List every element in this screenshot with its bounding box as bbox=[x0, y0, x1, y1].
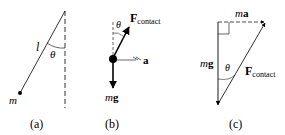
caption-a: (a) bbox=[30, 117, 43, 131]
contact-force-arrow bbox=[113, 27, 129, 58]
caption-b: (b) bbox=[105, 117, 119, 131]
weight-label: mg bbox=[105, 91, 119, 103]
angle-label: θ bbox=[50, 48, 56, 60]
caption-c: (c) bbox=[229, 117, 242, 131]
weight-label: mg bbox=[200, 57, 214, 69]
angle-arc bbox=[113, 33, 123, 36]
acceleration-label: a bbox=[143, 54, 149, 66]
panel-b: Fcontact θ a mg (b) bbox=[105, 11, 161, 131]
pendulum-string bbox=[20, 11, 65, 93]
right-angle-marker bbox=[218, 22, 229, 34]
acceleration-double-arrowhead bbox=[133, 57, 141, 60]
mass-label: m bbox=[9, 94, 17, 106]
pendulum-force-diagram: l θ m (a) Fcontact θ a mg (b) ma mg θ Fc… bbox=[0, 0, 285, 135]
length-label: l bbox=[36, 40, 40, 54]
angle-label: θ bbox=[225, 62, 230, 73]
ma-label: ma bbox=[235, 7, 249, 19]
pendulum-mass bbox=[18, 91, 22, 95]
angle-label: θ bbox=[116, 19, 121, 30]
panel-c: ma mg θ Fcontact (c) bbox=[200, 7, 276, 131]
panel-a: l θ m (a) bbox=[9, 11, 65, 131]
mass-point bbox=[109, 55, 117, 63]
force-contact-label: Fcontact bbox=[245, 64, 276, 79]
force-contact-label: Fcontact bbox=[130, 11, 161, 26]
